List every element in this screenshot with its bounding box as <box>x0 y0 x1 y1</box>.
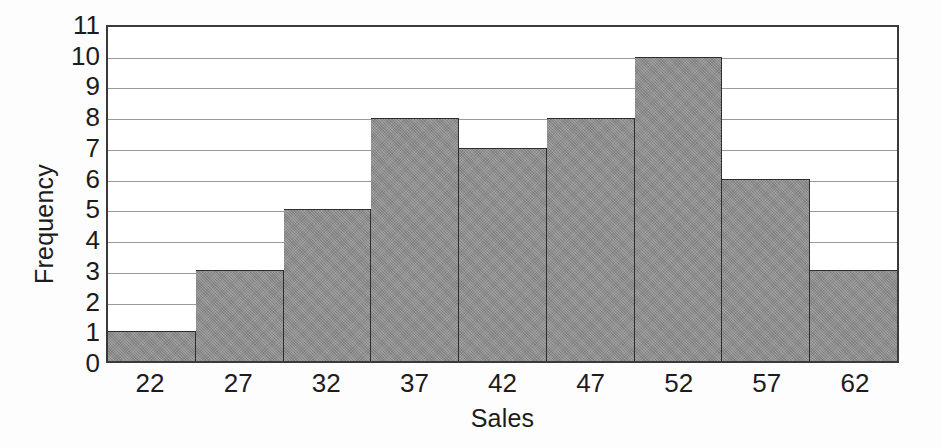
bar <box>284 209 372 361</box>
y-axis-tick-label: 8 <box>58 104 100 130</box>
bar-series <box>108 27 897 361</box>
bar <box>108 331 196 361</box>
y-axis-tick-label: 10 <box>58 43 100 69</box>
x-axis-tick-label: 47 <box>547 366 635 400</box>
x-axis-tick-label: 22 <box>106 366 194 400</box>
y-axis-tick-labels: 11109876543210 <box>52 0 100 448</box>
y-axis-tick-label: 9 <box>58 73 100 99</box>
x-axis-tick-label: 52 <box>635 366 723 400</box>
x-axis-tick-label: 37 <box>370 366 458 400</box>
bar <box>722 179 810 361</box>
histogram-screenshot: Frequency 11109876543210 222732374247525… <box>0 0 941 448</box>
y-axis-tick-label: 7 <box>58 135 100 161</box>
y-axis-tick-label: 0 <box>58 350 100 376</box>
bar <box>196 270 284 361</box>
x-axis-tick-label: 42 <box>458 366 546 400</box>
y-axis-tick-label: 5 <box>58 196 100 222</box>
x-axis-tick-label: 32 <box>282 366 370 400</box>
y-axis-tick-label: 3 <box>58 258 100 284</box>
x-axis-tick-label: 27 <box>194 366 282 400</box>
x-axis-tick-label: 62 <box>811 366 899 400</box>
plot-area <box>106 25 899 363</box>
x-axis-tick-labels: 222732374247525762 <box>106 366 899 400</box>
bar <box>810 270 897 361</box>
bar <box>635 57 723 361</box>
y-axis-tick-label: 2 <box>58 289 100 315</box>
bar <box>547 118 635 361</box>
y-axis-tick-label: 6 <box>58 166 100 192</box>
bar <box>371 118 459 361</box>
x-axis-title: Sales <box>106 404 899 433</box>
y-axis-tick-label: 4 <box>58 227 100 253</box>
x-axis-tick-label: 57 <box>723 366 811 400</box>
y-axis-tick-label: 11 <box>58 12 100 38</box>
bar <box>459 148 547 361</box>
y-axis-tick-label: 1 <box>58 319 100 345</box>
